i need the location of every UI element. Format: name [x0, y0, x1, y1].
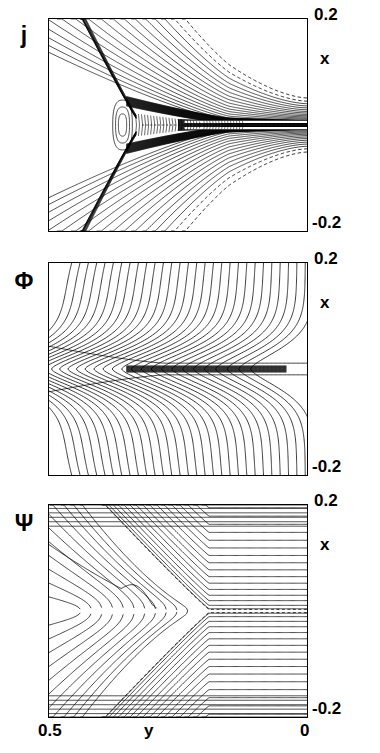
panel-psi-ybottom-label: -0.2 — [312, 700, 341, 717]
panel-j-contours — [49, 19, 307, 231]
panel-psi — [48, 504, 308, 718]
contour-figure: j 0.2 x -0.2 Φ 0.2 x -0.2 Ψ 0.2 x -0.2 0… — [0, 0, 380, 753]
panel-phi-contours — [49, 263, 307, 475]
panel-psi-yaxis-name: x — [320, 536, 329, 553]
panel-phi-ytop-label: 0.2 — [314, 250, 338, 267]
xaxis-left-label: 0.5 — [38, 722, 62, 739]
panel-j-ytop-label: 0.2 — [314, 6, 338, 23]
panel-psi-ytop-label: 0.2 — [314, 492, 338, 509]
panel-j-ybottom-label: -0.2 — [312, 214, 341, 231]
panel-j-yaxis-name: x — [320, 50, 329, 67]
xaxis-right-label: 0 — [300, 722, 309, 739]
panel-psi-contours — [49, 505, 307, 717]
panel-symbol-j: j — [2, 24, 46, 47]
panel-phi-yaxis-name: x — [320, 294, 329, 311]
panel-psi-frame — [48, 504, 308, 718]
panel-j — [48, 18, 308, 232]
panel-symbol-phi: Φ — [2, 270, 46, 293]
xaxis-name: y — [144, 722, 153, 739]
panel-phi-frame — [48, 262, 308, 476]
panel-j-frame — [48, 18, 308, 232]
panel-phi — [48, 262, 308, 476]
panel-symbol-psi: Ψ — [2, 512, 46, 535]
panel-phi-ybottom-label: -0.2 — [312, 458, 341, 475]
